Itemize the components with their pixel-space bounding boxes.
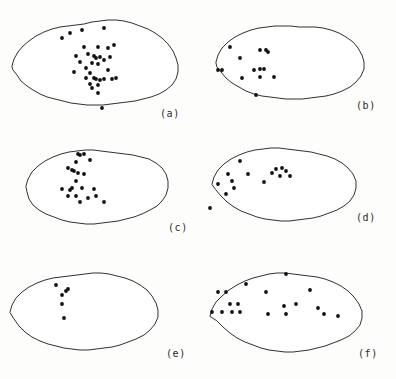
data-point <box>60 293 64 297</box>
data-point <box>74 54 78 58</box>
data-point <box>280 166 284 170</box>
data-point <box>68 31 72 35</box>
data-point <box>54 283 58 287</box>
data-point <box>88 82 92 86</box>
data-point <box>284 272 288 276</box>
data-point <box>102 200 106 204</box>
panel-label: (e) <box>166 348 186 359</box>
region-outline <box>212 148 356 221</box>
data-point <box>84 76 88 80</box>
data-point <box>74 179 78 183</box>
data-point <box>308 288 312 292</box>
data-point <box>84 66 88 70</box>
data-point <box>258 67 262 71</box>
data-point <box>60 302 64 306</box>
data-point <box>102 26 106 30</box>
data-point <box>82 45 86 49</box>
data-point <box>72 70 76 74</box>
data-point <box>244 282 248 286</box>
data-point <box>112 43 116 47</box>
data-point <box>98 55 102 59</box>
data-point <box>216 68 220 72</box>
point-pattern-plot <box>0 252 198 378</box>
data-point <box>102 58 106 62</box>
data-point <box>86 52 90 56</box>
data-point <box>78 153 82 157</box>
data-point <box>270 171 274 175</box>
data-point <box>106 46 110 50</box>
data-point <box>284 169 288 173</box>
panel-label: (b) <box>356 100 376 111</box>
region-outline <box>12 20 178 105</box>
data-point <box>266 50 270 54</box>
data-point <box>210 310 214 314</box>
data-point <box>96 91 100 95</box>
data-point <box>74 160 78 164</box>
data-point <box>208 206 212 210</box>
data-point <box>90 86 94 90</box>
data-point <box>86 196 90 200</box>
data-point <box>230 179 234 183</box>
data-point <box>80 186 84 190</box>
data-point <box>108 55 112 59</box>
data-point <box>246 172 250 176</box>
data-point <box>220 68 224 72</box>
data-point <box>78 200 82 204</box>
data-point <box>258 75 262 79</box>
data-point <box>228 45 232 49</box>
data-point <box>294 302 298 306</box>
data-point <box>78 60 82 64</box>
data-point <box>274 167 278 171</box>
point-pattern-plot <box>198 126 396 252</box>
point-pattern-plot <box>0 126 198 252</box>
data-point <box>336 314 340 318</box>
panel-label: (f) <box>358 348 378 359</box>
point-pattern-plot <box>198 252 396 378</box>
data-point <box>66 166 70 170</box>
panel-label: (a) <box>160 108 180 119</box>
data-point <box>322 312 326 316</box>
data-point <box>94 77 98 81</box>
data-point <box>66 287 70 291</box>
data-point <box>216 290 220 294</box>
panel-label: (d) <box>356 212 376 223</box>
data-point <box>216 182 220 186</box>
panel-c: (c) <box>0 126 198 252</box>
region-outline <box>10 273 158 350</box>
data-point <box>94 56 98 60</box>
data-point <box>254 93 258 97</box>
data-point <box>82 172 86 176</box>
data-point <box>228 302 232 306</box>
data-point <box>80 28 84 32</box>
data-point <box>94 194 98 198</box>
panel-b: (b) <box>198 0 396 126</box>
data-point <box>282 304 286 308</box>
data-point <box>240 76 244 80</box>
data-point <box>60 36 64 40</box>
data-point <box>96 62 100 66</box>
data-point <box>262 180 266 184</box>
figure-container: (a)(b)(c)(d)(e)(f) <box>0 0 396 379</box>
data-point <box>66 194 70 198</box>
data-point <box>88 158 92 162</box>
data-point <box>114 76 118 80</box>
panel-label: (c) <box>168 222 188 233</box>
data-point <box>224 192 228 196</box>
data-point <box>226 172 230 176</box>
data-point <box>90 61 94 65</box>
data-point <box>98 78 102 82</box>
data-point <box>110 77 114 81</box>
data-point <box>96 45 100 49</box>
data-point <box>106 68 110 72</box>
panel-e: (e) <box>0 252 198 378</box>
data-point <box>74 194 78 198</box>
data-point <box>224 290 228 294</box>
panel-d: (d) <box>198 126 396 252</box>
data-point <box>92 187 96 191</box>
data-point <box>62 316 66 320</box>
data-point <box>102 77 106 81</box>
data-point <box>230 310 234 314</box>
data-point <box>262 67 266 71</box>
panel-a: (a) <box>0 0 198 126</box>
data-point <box>266 312 270 316</box>
